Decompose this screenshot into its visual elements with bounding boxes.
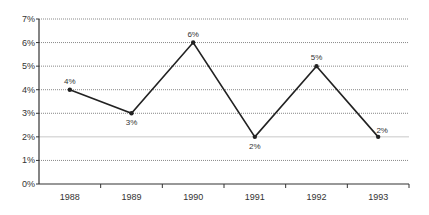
data-point [314, 64, 318, 68]
y-tick-label: 1% [22, 155, 35, 165]
data-label: 4% [64, 77, 76, 86]
y-tick-labels: 0%1%2%3%4%5%6%7% [22, 14, 39, 189]
y-tick-label: 7% [22, 14, 35, 24]
x-tick-label: 1992 [306, 192, 326, 202]
data-point [191, 40, 195, 44]
data-point [253, 135, 257, 139]
axes [39, 19, 409, 184]
data-point [68, 88, 72, 92]
x-tick-label: 1990 [183, 192, 203, 202]
data-label: 2% [249, 142, 261, 151]
y-tick-label: 4% [22, 85, 35, 95]
y-tick-label: 2% [22, 132, 35, 142]
data-point [129, 111, 133, 115]
x-tick-label: 1989 [121, 192, 141, 202]
data-point [376, 135, 380, 139]
x-tick-label: 1993 [368, 192, 388, 202]
y-tick-label: 3% [22, 108, 35, 118]
y-tick-label: 6% [22, 38, 35, 48]
line-chart: 0%1%2%3%4%5%6%7% 19881989199019911992199… [0, 0, 429, 215]
x-tick-labels: 198819891990199119921993 [60, 184, 409, 202]
y-tick-label: 5% [22, 61, 35, 71]
data-label: 6% [187, 30, 199, 39]
data-label: 5% [311, 53, 323, 62]
x-tick-label: 1991 [245, 192, 265, 202]
x-tick-label: 1988 [60, 192, 80, 202]
data-series: 4%3%6%2%5%2% [64, 30, 388, 151]
y-tick-label: 0% [22, 179, 35, 189]
data-label: 2% [376, 126, 388, 135]
data-label: 3% [126, 118, 138, 127]
